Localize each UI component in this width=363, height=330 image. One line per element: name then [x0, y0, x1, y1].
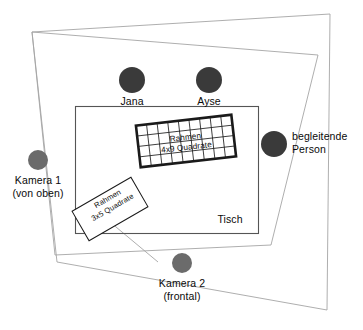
- diagram-canvas: Rahmen 4x9 Quadrate Rahmen 3x5 Quadrate …: [0, 0, 363, 330]
- person-dot-jana: [119, 67, 145, 93]
- camera-label-kamera-2: Kamera 2 (frontal): [159, 277, 205, 302]
- kamera-2-label-line1: Kamera 2: [159, 277, 205, 290]
- begleitperson-label-line2: Person: [292, 143, 347, 156]
- person-label-ayse: Ayse: [197, 95, 221, 107]
- kamera-1-label-line1: Kamera 1: [12, 174, 63, 187]
- kamera-1-label-line2: (von oben): [12, 187, 63, 200]
- person-dot-begleitperson: [261, 131, 287, 157]
- kamera-2-label-line2: (frontal): [159, 290, 205, 303]
- person-label-begleitperson: begleitende Person: [292, 130, 347, 155]
- camera-2-sight-line: [110, 222, 158, 262]
- table-label: Tisch: [217, 213, 242, 225]
- camera-label-kamera-1: Kamera 1 (von oben): [12, 174, 63, 199]
- person-label-jana: Jana: [120, 95, 143, 107]
- person-dot-ayse: [196, 67, 222, 93]
- camera-dot-kamera-1: [28, 150, 48, 170]
- begleitperson-label-line1: begleitende: [292, 130, 347, 143]
- camera-dot-kamera-2: [172, 253, 192, 273]
